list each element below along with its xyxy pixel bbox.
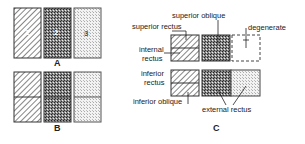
label-external-rectus: external rectus	[202, 106, 251, 114]
label-inferior-rectus-2: rectus	[144, 79, 164, 87]
label-superior-oblique: superior oblique	[172, 12, 225, 20]
label-inferior-rectus-1: inferior	[141, 70, 164, 78]
label-superior-rectus: superior rectus	[132, 23, 182, 31]
box-2-number: 2	[54, 28, 58, 37]
label-inferior-oblique: inferior oblique	[133, 98, 182, 106]
box-3-number: 3	[84, 29, 88, 38]
panel-label-b: B	[54, 123, 61, 133]
label-degenerate: degenerate	[248, 24, 286, 32]
panel-label-a: A	[54, 58, 61, 68]
label-internal-rectus-2: rectus	[142, 55, 162, 63]
panel-label-c: C	[213, 123, 220, 133]
panel-b	[14, 72, 101, 122]
box-1-number: 1	[25, 28, 29, 37]
panel-c	[164, 20, 260, 105]
label-internal-rectus-1: internal	[139, 46, 164, 54]
